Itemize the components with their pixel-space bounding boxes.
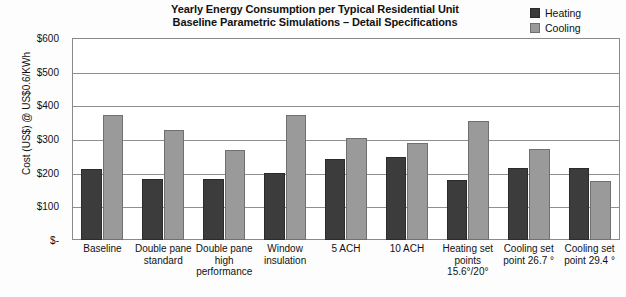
- bar-cooling: [286, 115, 307, 240]
- bar-cooling: [590, 181, 611, 240]
- bar-group: [255, 38, 316, 240]
- legend-item-cooling: Cooling: [530, 20, 620, 35]
- x-axis-tick-labels: BaselineDouble panestandardDouble panehi…: [72, 243, 620, 297]
- x-tick-label: 10 ACH: [376, 243, 437, 255]
- y-tick-label: $200: [15, 168, 59, 179]
- bar-heating: [569, 168, 590, 240]
- x-tick-label: Baseline: [72, 243, 133, 255]
- bar-heating: [447, 180, 468, 240]
- bar-group: [194, 38, 255, 240]
- x-tick-label: Double panestandard: [133, 243, 194, 266]
- x-tick-label: Windowinsulation: [255, 243, 316, 266]
- y-tick-label: $-: [15, 235, 59, 246]
- y-tick-label: $100: [15, 201, 59, 212]
- y-tick-label: $600: [15, 33, 59, 44]
- x-tick-label: Cooling setpoint 29.4 °: [559, 243, 620, 266]
- bar-heating: [203, 179, 224, 240]
- bar-group: [72, 38, 133, 240]
- y-tick-label: $300: [15, 134, 59, 145]
- x-tick-label: 5 ACH: [316, 243, 377, 255]
- legend-label-heating: Heating: [545, 7, 581, 19]
- x-tick-label: Cooling setpoint 26.7 °: [498, 243, 559, 266]
- bar-group: [559, 38, 620, 240]
- bar-group: [133, 38, 194, 240]
- y-tick-label: $400: [15, 100, 59, 111]
- bar-cooling: [225, 150, 246, 240]
- legend-label-cooling: Cooling: [545, 22, 581, 34]
- bar-chart: Yearly Energy Consumption per Typical Re…: [0, 0, 626, 297]
- bar-heating: [142, 179, 163, 240]
- bar-group: [498, 38, 559, 240]
- chart-title-block: Yearly Energy Consumption per Typical Re…: [120, 3, 510, 29]
- bar-heating: [508, 168, 529, 240]
- bar-heating: [81, 169, 102, 240]
- x-tick-label: Double panehighperformance: [194, 243, 255, 278]
- cooling-swatch-icon: [530, 23, 540, 33]
- bar-cooling: [529, 149, 550, 240]
- legend-item-heating: Heating: [530, 5, 620, 20]
- chart-title: Yearly Energy Consumption per Typical Re…: [120, 3, 510, 16]
- heating-swatch-icon: [530, 8, 540, 18]
- bar-cooling: [164, 130, 185, 240]
- bar-heating: [264, 173, 285, 240]
- bars-layer: [72, 38, 620, 240]
- x-tick-label: Heating setpoints15.6°/20°: [437, 243, 498, 278]
- bar-cooling: [103, 115, 124, 240]
- y-tick-label: $500: [15, 67, 59, 78]
- bar-heating: [386, 157, 407, 240]
- chart-legend: Heating Cooling: [530, 5, 620, 35]
- bar-cooling: [407, 143, 428, 240]
- bar-heating: [325, 159, 346, 240]
- bar-cooling: [468, 121, 489, 240]
- bar-group: [437, 38, 498, 240]
- bar-group: [316, 38, 377, 240]
- bar-group: [376, 38, 437, 240]
- chart-subtitle: Baseline Parametric Simulations – Detail…: [120, 16, 510, 29]
- bar-cooling: [346, 138, 367, 240]
